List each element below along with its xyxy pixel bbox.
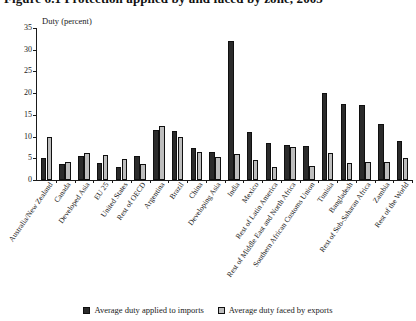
bar bbox=[191, 148, 197, 180]
bar-group bbox=[93, 28, 112, 180]
bar bbox=[159, 126, 165, 180]
bar-group bbox=[150, 28, 169, 180]
legend-swatch-icon bbox=[83, 307, 90, 314]
legend-label: Average duty faced by exports bbox=[229, 305, 333, 315]
bar bbox=[97, 163, 103, 180]
bar bbox=[272, 167, 278, 180]
x-axis-category-label: India bbox=[226, 181, 242, 198]
bar-group bbox=[206, 28, 225, 180]
y-axis-tick-label: 10 bbox=[13, 133, 32, 141]
bar bbox=[397, 141, 403, 180]
bar-group bbox=[243, 28, 262, 180]
bar-group bbox=[318, 28, 337, 180]
chart-legend: Average duty applied to importsAverage d… bbox=[0, 305, 416, 315]
bar-group bbox=[300, 28, 319, 180]
bar-group bbox=[187, 28, 206, 180]
bar bbox=[140, 164, 146, 180]
y-axis-tick-mark bbox=[33, 158, 36, 159]
bar bbox=[178, 137, 184, 180]
bar bbox=[172, 131, 178, 180]
legend-label: Average duty applied to imports bbox=[94, 305, 203, 315]
y-axis-tick-mark bbox=[33, 137, 36, 138]
y-axis-tick-label: 25 bbox=[13, 67, 32, 75]
bar bbox=[65, 162, 71, 180]
x-axis-category-label: Australia/New Zealand bbox=[7, 181, 54, 243]
bar-series-container bbox=[37, 28, 412, 180]
bar bbox=[209, 152, 215, 180]
bar-group bbox=[281, 28, 300, 180]
legend-item: Average duty faced by exports bbox=[218, 305, 333, 315]
bar bbox=[365, 162, 371, 180]
bar bbox=[215, 157, 221, 180]
bar bbox=[384, 162, 390, 180]
bar bbox=[197, 152, 203, 180]
bar bbox=[59, 164, 65, 180]
bar bbox=[253, 160, 259, 180]
legend-item: Average duty applied to imports bbox=[83, 305, 203, 315]
y-axis-tick-mark bbox=[33, 93, 36, 94]
bar bbox=[303, 146, 309, 180]
bar-group bbox=[393, 28, 412, 180]
y-axis-tick-label: 20 bbox=[13, 89, 32, 97]
y-axis-tick-mark bbox=[33, 71, 36, 72]
bar bbox=[284, 145, 290, 180]
y-axis-tick-label: 35 bbox=[13, 24, 32, 32]
y-axis-tick-label: 0 bbox=[13, 176, 32, 184]
y-axis-tick-label: 30 bbox=[13, 46, 32, 54]
bar bbox=[153, 130, 159, 180]
bar bbox=[266, 143, 272, 180]
bar-group bbox=[75, 28, 94, 180]
figure-title: Figure 6.1 Protection applied by and fac… bbox=[4, 0, 323, 7]
bar bbox=[322, 93, 328, 180]
legend-swatch-icon bbox=[218, 307, 225, 314]
bar bbox=[78, 156, 84, 180]
bar bbox=[41, 158, 47, 180]
bar bbox=[134, 156, 140, 180]
bar-group bbox=[262, 28, 281, 180]
y-axis-tick-mark bbox=[33, 28, 36, 29]
bar bbox=[328, 153, 334, 180]
bar bbox=[247, 132, 253, 180]
bar-group bbox=[225, 28, 244, 180]
bar-group bbox=[356, 28, 375, 180]
bar-group bbox=[168, 28, 187, 180]
x-axis-category-label: Brazil bbox=[168, 181, 185, 201]
bar bbox=[341, 104, 347, 180]
plot-area: 05101520253035 bbox=[36, 28, 412, 180]
bar bbox=[122, 159, 128, 180]
bar-group bbox=[37, 28, 56, 180]
bar bbox=[228, 41, 234, 180]
bar bbox=[84, 153, 90, 180]
bar-group bbox=[131, 28, 150, 180]
bar-group bbox=[112, 28, 131, 180]
x-axis-category-label: EU 25 bbox=[93, 181, 111, 202]
y-axis-tick-label: 15 bbox=[13, 111, 32, 119]
bar bbox=[309, 166, 315, 180]
bar bbox=[116, 167, 122, 180]
bar bbox=[403, 158, 409, 180]
bar bbox=[47, 137, 53, 180]
bar bbox=[103, 155, 109, 180]
bar bbox=[359, 105, 365, 180]
bar bbox=[234, 154, 240, 180]
y-axis-tick-label: 5 bbox=[13, 154, 32, 162]
bar-group bbox=[337, 28, 356, 180]
bar bbox=[347, 163, 353, 180]
y-axis-tick-mark bbox=[33, 115, 36, 116]
x-axis-category-labels: Australia/New ZealandCanadaDeveloped Asi… bbox=[36, 181, 416, 291]
bar-group bbox=[56, 28, 75, 180]
y-axis-caption: Duty (percent) bbox=[42, 16, 92, 26]
y-axis-tick-mark bbox=[33, 50, 36, 51]
bar bbox=[290, 147, 296, 180]
bar-group bbox=[375, 28, 394, 180]
bar bbox=[378, 124, 384, 180]
